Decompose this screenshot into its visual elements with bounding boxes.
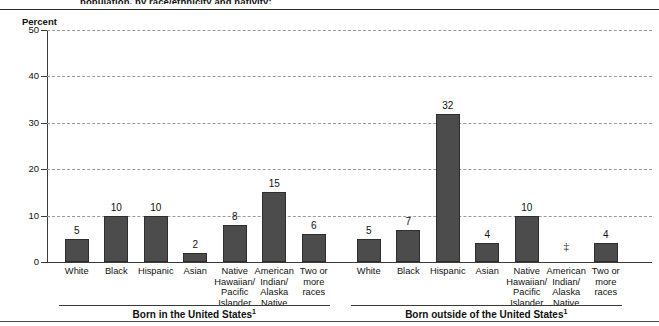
y-tick-label: 50 xyxy=(17,24,39,35)
bar-value-label: 4 xyxy=(586,229,626,240)
group-label: Born in the United States1 xyxy=(59,308,330,320)
bar-value-label: 4 xyxy=(467,229,507,240)
bar xyxy=(144,216,168,262)
suppressed-value-marker: ‡ xyxy=(546,240,586,252)
bar xyxy=(594,243,618,262)
bar-value-label: 5 xyxy=(57,225,97,236)
bar xyxy=(396,230,420,262)
bar-value-label: 7 xyxy=(388,216,428,227)
gridline xyxy=(47,216,652,217)
bar xyxy=(302,234,326,262)
bar xyxy=(262,192,286,262)
bar-value-label: 15 xyxy=(254,178,294,189)
bar xyxy=(65,239,89,262)
bar-value-label: 10 xyxy=(507,202,547,213)
bar-value-label: 5 xyxy=(349,225,389,236)
y-tick-label: 40 xyxy=(17,70,39,81)
y-tick-label: 0 xyxy=(17,256,39,267)
x-axis-line xyxy=(47,262,652,263)
y-tick-mark xyxy=(41,262,47,263)
gridline xyxy=(47,30,652,31)
x-category-label: Two ormoreraces xyxy=(578,266,634,298)
group-label: Born outside of the United States1 xyxy=(351,308,622,320)
gridline xyxy=(47,169,652,170)
bar xyxy=(515,216,539,262)
y-tick-label: 20 xyxy=(17,163,39,174)
group-bracket xyxy=(59,305,330,306)
y-tick-label: 10 xyxy=(17,210,39,221)
y-tick-label: 30 xyxy=(17,117,39,128)
top-divider xyxy=(0,9,659,10)
bar-value-label: 6 xyxy=(294,220,334,231)
bar xyxy=(436,114,460,262)
bar-value-label: 2 xyxy=(175,239,215,250)
bar xyxy=(104,216,128,262)
chart-figure: population, by race/ethnicity and nativi… xyxy=(0,0,659,326)
bar-value-label: 10 xyxy=(96,202,136,213)
plot-area: 0102030405051010281565732410‡4 xyxy=(47,30,652,262)
group-bracket xyxy=(351,305,622,306)
x-category-label: Two ormoreraces xyxy=(286,266,342,298)
bar xyxy=(183,253,207,262)
bar xyxy=(475,243,499,262)
gridline xyxy=(47,76,652,77)
bar-value-label: 32 xyxy=(428,100,468,111)
bar-value-label: 8 xyxy=(215,211,255,222)
bar xyxy=(223,225,247,262)
bottom-divider xyxy=(0,321,659,322)
gridline xyxy=(47,123,652,124)
bar xyxy=(357,239,381,262)
chart-title-clipped: population, by race/ethnicity and nativi… xyxy=(80,0,550,4)
bar-value-label: 10 xyxy=(136,202,176,213)
